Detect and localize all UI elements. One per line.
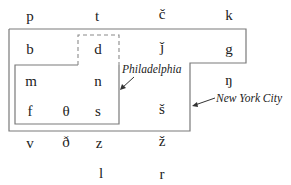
phoneme-z: z [96,136,103,151]
phoneme-eth: ð [62,135,70,150]
phoneme-z-hacek: ž [159,134,166,149]
phoneme-b: b [26,42,34,57]
phoneme-s: s [95,104,101,119]
phoneme-l: l [99,166,103,181]
new-york-city-label: New York City [216,93,282,105]
phoneme-k: k [225,8,233,23]
phoneme-t: t [95,9,99,24]
dialect-consonant-diagram: p t č k b d ǰ g m n ŋ f θ s š v ð z ž l … [0,0,291,185]
phoneme-s-hacek: š [159,102,165,117]
phoneme-j-hacek: ǰ [160,40,164,55]
phoneme-c-hacek: č [159,7,166,22]
phoneme-n: n [94,74,102,89]
philadelphia-label: Philadelphia [122,64,181,76]
new-york-city-arrow-head [192,102,198,107]
phoneme-f: f [28,104,33,119]
new-york-city-arrow-line [195,98,215,105]
new-york-city-boundary [9,29,246,131]
phoneme-d: d [94,42,102,57]
phoneme-v: v [26,136,34,151]
phoneme-theta: θ [62,104,69,119]
phoneme-p: p [26,9,34,24]
phoneme-m: m [25,74,37,89]
phoneme-eng: ŋ [225,73,232,88]
phoneme-r: r [160,167,165,182]
phoneme-g: g [225,42,233,57]
